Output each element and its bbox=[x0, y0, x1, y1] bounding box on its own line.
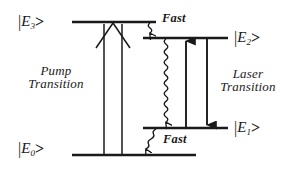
fast-decay-E3-E2 bbox=[148, 23, 152, 33]
decay-E2-E1 bbox=[164, 39, 168, 122]
ket-angle-E0: > bbox=[35, 140, 44, 157]
ket-symbol-E1: E bbox=[237, 119, 246, 135]
ket-symbol-E0: E bbox=[21, 140, 30, 156]
energy-level-diagram: |E3> |E2> |E1> |E0> Pump Transition Lase… bbox=[0, 0, 298, 171]
level-label-E1: |E1> bbox=[234, 120, 260, 137]
fast-label-top: Fast bbox=[162, 12, 186, 25]
ket-angle-E2: > bbox=[251, 29, 260, 46]
pump-label-line2: Transition bbox=[14, 77, 98, 90]
ket-angle-E1: > bbox=[251, 119, 260, 136]
pump-transition-arrows bbox=[96, 23, 130, 155]
fast-label-bottom: Fast bbox=[163, 133, 187, 146]
level-label-E2: |E2> bbox=[234, 30, 260, 47]
wavy-line-E1-E0 bbox=[146, 129, 156, 149]
laser-transition-label: Laser Transition bbox=[204, 67, 292, 93]
level-label-E0: |E0> bbox=[18, 141, 44, 158]
wavy-line-E2-E1 bbox=[164, 39, 168, 122]
ket-symbol-E3: E bbox=[21, 13, 30, 29]
pump-transition-label: Pump Transition bbox=[14, 64, 98, 90]
laser-label-line2: Transition bbox=[204, 80, 292, 93]
ket-angle-E3: > bbox=[35, 13, 44, 30]
ket-symbol-E2: E bbox=[237, 29, 246, 45]
level-label-E3: |E3> bbox=[18, 14, 44, 31]
wavy-line-E3-E2 bbox=[148, 23, 152, 33]
fast-decay-E1-E0 bbox=[146, 129, 156, 149]
